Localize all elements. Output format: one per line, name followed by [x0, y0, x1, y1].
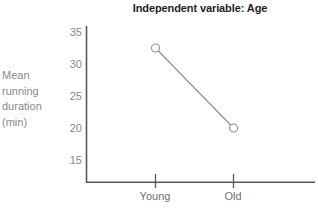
plot-area: [0, 0, 318, 212]
data-point-old: [230, 124, 238, 132]
data-point-young: [152, 44, 160, 52]
chart-figure: Independent variable: Age Mean running d…: [0, 0, 318, 212]
data-line-segment: [156, 48, 234, 128]
